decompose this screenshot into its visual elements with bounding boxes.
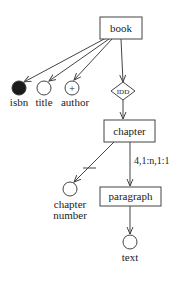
circle-icon xyxy=(37,81,51,95)
node-paragraph: paragraph xyxy=(100,187,161,206)
edge-label-cardinality: 4,1:n,1:1 xyxy=(134,155,170,166)
node-title: title xyxy=(35,81,52,108)
circle-icon xyxy=(63,182,77,196)
node-text-label: text xyxy=(122,251,139,263)
circle-icon xyxy=(123,235,137,249)
node-text: text xyxy=(122,235,139,263)
node-chapter-number-label-2: number xyxy=(53,209,87,221)
node-chapter: chapter xyxy=(104,120,155,142)
node-idd: IDD xyxy=(111,82,135,100)
edge-chapter-chapternumber xyxy=(74,142,114,182)
node-title-label: title xyxy=(35,96,52,108)
node-author: + author xyxy=(61,81,89,108)
author-plus-symbol: + xyxy=(69,83,75,94)
node-book: book xyxy=(100,17,142,39)
node-isbn: isbn xyxy=(10,81,29,108)
edge-book-isbn xyxy=(24,38,106,82)
node-author-label: author xyxy=(61,96,89,108)
node-chapter-label: chapter xyxy=(113,125,146,137)
schema-diagram: book isbn title + author IDD chapter 4,1… xyxy=(0,0,188,285)
edge-book-idd xyxy=(121,39,123,82)
node-isbn-label: isbn xyxy=(10,96,29,108)
filled-circle-icon xyxy=(12,81,26,95)
node-idd-label: IDD xyxy=(117,88,129,96)
node-paragraph-label: paragraph xyxy=(109,190,153,202)
node-chapter-number: chapter number xyxy=(53,182,87,221)
node-book-label: book xyxy=(110,22,133,34)
